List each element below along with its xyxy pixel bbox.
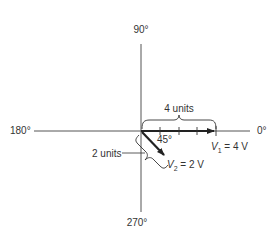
- label-90-degrees: 90°: [133, 24, 148, 35]
- v1-equation-label: V1 = 4 V: [211, 141, 248, 154]
- label-0-degrees: 0°: [257, 125, 267, 136]
- label-180-degrees: 180°: [10, 125, 31, 136]
- v2-equation-label: V2 = 2 V: [167, 159, 204, 172]
- two-units-label: 2 units: [92, 148, 121, 159]
- four-units-label: 4 units: [164, 103, 193, 114]
- four-units-brace: [142, 115, 216, 129]
- label-270-degrees: 270°: [127, 217, 148, 228]
- angle-45-label: 45°: [157, 134, 172, 145]
- phasor-diagram: 90° 270° 180° 0° 4 units V1 = 4 V 2 unit…: [0, 0, 276, 241]
